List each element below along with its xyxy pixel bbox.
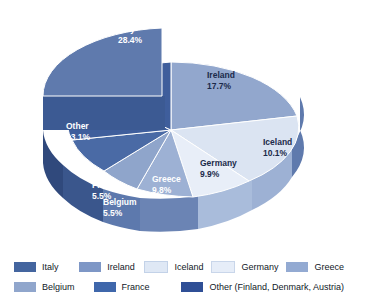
label-iceland-name: Iceland [263,137,292,147]
label-iceland-pct: 10.1% [263,148,288,158]
legend-swatch-ireland [79,262,101,272]
label-belgium-pct: 5.5% [103,208,123,218]
legend-swatch-germany [211,261,235,273]
legend-item-france[interactable]: France [94,282,174,292]
legend-swatch-greece [286,262,308,272]
label-italy-pct: 28.4% [118,35,143,45]
legend-item-germany[interactable]: Germany [211,261,278,273]
italy-riser-edge [162,96,165,130]
legend-label-france: France [122,282,150,292]
legend-row-1: Italy Ireland Iceland Germany Greece [14,257,352,277]
legend-swatch-italy [14,262,36,272]
label-italy-name: Italy [118,24,135,34]
slice-side-other [43,130,63,198]
label-ireland-pct: 17.7% [207,81,232,91]
legend-item-greece[interactable]: Greece [286,262,344,272]
label-other-name: Other [66,121,89,131]
legend-swatch-belgium [14,282,36,292]
legend-swatch-other [181,282,203,292]
pie-chart-figure: Italy 28.4% Ireland 17.7% Iceland 10.1% … [0,0,366,303]
slice-side-greece [140,196,198,232]
label-germany-pct: 9.9% [200,169,220,179]
legend-label-belgium: Belgium [42,282,75,292]
italy-side-radius-right [43,96,162,130]
label-germany-name: Germany [200,158,237,168]
legend-swatch-france [94,282,116,292]
legend-swatch-iceland [144,261,168,273]
legend-item-italy[interactable]: Italy [14,262,71,272]
legend-label-ireland: Ireland [107,262,135,272]
legend-item-iceland[interactable]: Iceland [144,261,203,273]
italy-top-face [43,28,162,96]
legend-item-ireland[interactable]: Ireland [79,262,136,272]
legend-item-other[interactable]: Other (Finland, Denmark, Austria) [181,282,344,292]
legend-label-iceland: Iceland [174,262,203,272]
label-france-name: France [92,180,120,190]
label-ireland-name: Ireland [207,70,235,80]
legend-label-greece: Greece [314,262,344,272]
pie-chart-svg: Italy 28.4% Ireland 17.7% Iceland 10.1% … [0,0,366,243]
label-greece-pct: 9.8% [152,185,172,195]
legend-item-belgium[interactable]: Belgium [14,282,86,292]
label-other-pct: 13.1% [66,132,91,142]
chart-legend: Italy Ireland Iceland Germany Greece [0,257,366,297]
pie-exploded-slice-italy [43,28,165,130]
label-france-pct: 5.5% [92,191,112,201]
legend-label-other: Other (Finland, Denmark, Austria) [209,282,344,292]
legend-row-2: Belgium France Other (Finland, Denmark, … [14,277,352,297]
legend-label-italy: Italy [42,262,59,272]
legend-label-germany: Germany [241,262,278,272]
label-greece-name: Greece [152,174,181,184]
